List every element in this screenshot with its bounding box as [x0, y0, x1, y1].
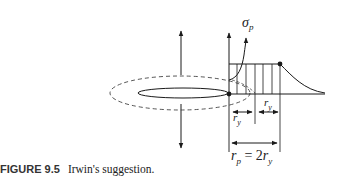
- stress-label: σp: [242, 15, 254, 32]
- ry-label-2: ry: [264, 96, 272, 112]
- figure-caption: FIGURE 9.5Irwin's suggestion.: [0, 163, 154, 179]
- ry-label-1: ry: [233, 111, 241, 127]
- figure-label: FIGURE 9.5: [0, 163, 60, 175]
- redistribution-dashed-curve: [232, 80, 255, 93]
- figure-caption-text: Irwin's suggestion.: [68, 163, 154, 175]
- elastic-stress-curve: [229, 38, 246, 80]
- elastic-decay-curve: [280, 64, 325, 93]
- irwin-plastic-zone-diagram: σp ry ry rp = 2ry: [0, 0, 337, 181]
- rp-equation: rp = 2ry: [231, 148, 272, 166]
- crack-ellipse: [138, 88, 228, 98]
- hatch-lines: [237, 64, 280, 152]
